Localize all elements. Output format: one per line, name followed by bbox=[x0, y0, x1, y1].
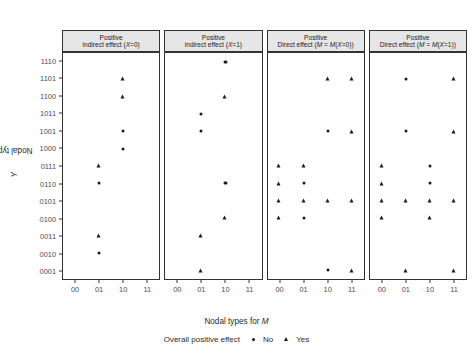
data-point[interactable] bbox=[324, 76, 331, 83]
y-axis-tick-label: 1100 bbox=[40, 91, 56, 100]
data-point[interactable] bbox=[450, 197, 457, 204]
data-point[interactable] bbox=[426, 197, 433, 204]
facet-strip-line2: indirect effect (X=1) bbox=[185, 41, 242, 48]
data-point[interactable] bbox=[402, 76, 409, 83]
data-point[interactable] bbox=[120, 128, 127, 135]
data-point[interactable] bbox=[222, 93, 229, 100]
x-axis-tick-mark bbox=[453, 280, 454, 283]
x-axis-tick-mark bbox=[99, 280, 100, 283]
data-point[interactable] bbox=[324, 128, 331, 135]
data-point[interactable] bbox=[348, 197, 355, 204]
data-point[interactable] bbox=[402, 128, 409, 135]
x-axis-tick-label: 00 bbox=[71, 285, 79, 294]
data-point[interactable] bbox=[120, 145, 127, 152]
data-point[interactable] bbox=[450, 267, 457, 274]
facet-panel-indirect-x0: Positiveindirect effect (X=0)00011011 bbox=[62, 30, 160, 298]
data-point[interactable] bbox=[300, 163, 307, 170]
data-point[interactable] bbox=[198, 232, 205, 239]
data-point[interactable] bbox=[276, 163, 283, 170]
x-axis-tick-label: 10 bbox=[426, 285, 434, 294]
legend-entry-no[interactable]: No bbox=[247, 333, 273, 346]
x-axis-ticks-direct-mx1: 00011011 bbox=[369, 280, 467, 298]
data-point[interactable] bbox=[120, 76, 127, 83]
data-point[interactable] bbox=[426, 180, 433, 187]
data-point[interactable] bbox=[378, 163, 385, 170]
y-axis-tick-label: 1011 bbox=[40, 109, 56, 118]
data-point[interactable] bbox=[378, 180, 385, 187]
data-point[interactable] bbox=[378, 215, 385, 222]
data-point[interactable] bbox=[120, 93, 127, 100]
x-axis-ticks-indirect-x0: 00011011 bbox=[62, 280, 160, 298]
x-axis-tick-mark bbox=[75, 280, 76, 283]
legend-entry-yes[interactable]: Yes bbox=[280, 333, 309, 346]
facet-panel-indirect-x1: Positiveindirect effect (X=1)00011011 bbox=[164, 30, 262, 298]
y-axis-tick-label: 1101 bbox=[40, 74, 56, 83]
x-axis-tick-label: 00 bbox=[173, 285, 181, 294]
facet-strip-label-direct-mx0: PositiveDirect effect (M = M(X=0)) bbox=[267, 30, 365, 52]
facet-panels: Positiveindirect effect (X=0)00011011Pos… bbox=[62, 30, 467, 298]
x-axis-tick-mark bbox=[279, 280, 280, 283]
plot-area-indirect-x1 bbox=[164, 52, 262, 280]
x-axis-tick-label: 11 bbox=[450, 285, 458, 294]
data-point[interactable] bbox=[300, 215, 307, 222]
facet-strip-line1: Positive bbox=[185, 34, 242, 41]
data-point[interactable] bbox=[276, 197, 283, 204]
y-axis-title: Nodal types for Y bbox=[2, 0, 18, 300]
y-axis-tick-label: 1110 bbox=[41, 56, 56, 65]
data-point[interactable] bbox=[276, 180, 283, 187]
data-point[interactable] bbox=[348, 76, 355, 83]
legend-label-no: No bbox=[263, 335, 273, 344]
data-point[interactable] bbox=[222, 215, 229, 222]
x-axis-tick-label: 01 bbox=[197, 285, 205, 294]
data-point[interactable] bbox=[198, 267, 205, 274]
chart-root: Nodal types for Y 1110110111001011100110… bbox=[0, 0, 473, 357]
data-point[interactable] bbox=[348, 267, 355, 274]
data-point[interactable] bbox=[198, 128, 205, 135]
data-point[interactable] bbox=[378, 197, 385, 204]
facet-strip-line1: Positive bbox=[278, 34, 354, 41]
x-axis-tick-label: 00 bbox=[378, 285, 386, 294]
x-axis-tick-label: 11 bbox=[143, 285, 151, 294]
data-point[interactable] bbox=[222, 58, 229, 65]
data-point[interactable] bbox=[96, 232, 103, 239]
x-axis-tick-mark bbox=[381, 280, 382, 283]
facet-panel-direct-mx0: PositiveDirect effect (M = M(X=0))000110… bbox=[267, 30, 365, 298]
data-point[interactable] bbox=[402, 197, 409, 204]
legend-title: Overall positive effect bbox=[164, 335, 240, 344]
data-point[interactable] bbox=[348, 128, 355, 135]
data-point[interactable] bbox=[426, 215, 433, 222]
y-axis-tick-label: 1000 bbox=[40, 144, 56, 153]
data-point[interactable] bbox=[222, 180, 229, 187]
data-point[interactable] bbox=[300, 180, 307, 187]
data-point[interactable] bbox=[402, 267, 409, 274]
x-axis-ticks-indirect-x1: 00011011 bbox=[164, 280, 262, 298]
x-axis-tick-label: 01 bbox=[95, 285, 103, 294]
data-point[interactable] bbox=[450, 128, 457, 135]
facet-panel-direct-mx1: PositiveDirect effect (M = M(X=1))000110… bbox=[369, 30, 467, 298]
data-point[interactable] bbox=[198, 110, 205, 117]
x-axis-tick-mark bbox=[351, 280, 352, 283]
y-axis-tick-label: 0011 bbox=[40, 232, 56, 241]
circle-marker-icon bbox=[247, 333, 260, 346]
data-point[interactable] bbox=[324, 197, 331, 204]
x-axis-tick-mark bbox=[123, 280, 124, 283]
facet-strip-label-indirect-x1: Positiveindirect effect (X=1) bbox=[164, 30, 262, 52]
legend: Overall positive effect No Yes bbox=[0, 333, 473, 346]
facet-strip-line2: indirect effect (X=0) bbox=[83, 41, 140, 48]
data-point[interactable] bbox=[426, 163, 433, 170]
y-axis-tick-label: 1001 bbox=[40, 126, 56, 135]
data-point[interactable] bbox=[324, 267, 331, 274]
y-axis-tick-labels: 1110110111001011100110000111011001010100… bbox=[18, 40, 62, 298]
x-axis-tick-mark bbox=[405, 280, 406, 283]
x-axis-tick-mark bbox=[249, 280, 250, 283]
data-point[interactable] bbox=[96, 163, 103, 170]
facet-strip-label-indirect-x0: Positiveindirect effect (X=0) bbox=[62, 30, 160, 52]
y-axis-tick-label: 0001 bbox=[40, 267, 56, 276]
data-point[interactable] bbox=[96, 180, 103, 187]
data-point[interactable] bbox=[96, 249, 103, 256]
x-axis-tick-label: 10 bbox=[324, 285, 332, 294]
data-point[interactable] bbox=[276, 215, 283, 222]
data-point[interactable] bbox=[450, 76, 457, 83]
data-point[interactable] bbox=[300, 197, 307, 204]
plot-area-direct-mx1 bbox=[369, 52, 467, 280]
